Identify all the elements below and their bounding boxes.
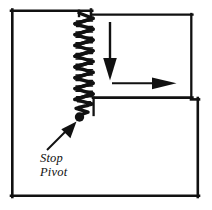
pivot-dot-icon xyxy=(75,112,84,121)
stop-label: Stop xyxy=(40,151,63,165)
diagram-canvas: Stop Pivot xyxy=(0,0,212,210)
pivot-label: Pivot xyxy=(39,165,68,179)
stop-pivot-diagram: Stop Pivot xyxy=(0,0,212,210)
canvas-background xyxy=(0,0,212,210)
